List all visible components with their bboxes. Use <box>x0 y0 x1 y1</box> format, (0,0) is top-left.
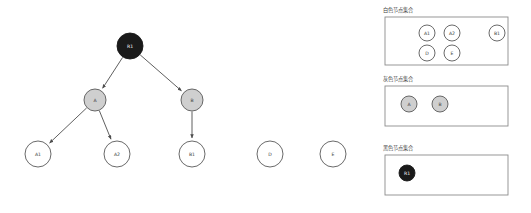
legend-node-black-node-set-r1[interactable]: R1 <box>399 165 415 181</box>
legend-node-white-node-set-d[interactable]: D <box>419 45 435 61</box>
tree-node-a2[interactable]: A2 <box>104 141 130 167</box>
tree-edge-r1-to-b <box>140 55 181 91</box>
tree-node-r1-label: R1 <box>127 44 133 49</box>
legend-node-white-node-set-b1[interactable]: B1 <box>489 25 505 41</box>
legend-node-gray-node-set-b[interactable]: B <box>432 96 448 112</box>
tree-node-b1-label: B1 <box>189 152 195 157</box>
legend-node-d-label: D <box>425 51 429 56</box>
tree-node-d[interactable]: D <box>257 141 283 167</box>
tree-node-d-label: D <box>268 152 272 157</box>
tree-node-b[interactable]: B <box>181 89 203 111</box>
tree-node-e-label: E <box>332 152 335 157</box>
legend-node-e-label: E <box>451 51 454 56</box>
tree-node-r1[interactable]: R1 <box>117 33 143 59</box>
tree-edges <box>50 55 192 143</box>
tree-node-b-label: B <box>190 98 193 103</box>
legend-node-b1-label: B1 <box>494 31 500 36</box>
legend-node-white-node-set-a2[interactable]: A2 <box>444 25 460 41</box>
tree-node-b1[interactable]: B1 <box>179 141 205 167</box>
tree-node-a1[interactable]: A1 <box>25 141 51 167</box>
legend-node-gray-node-set-a[interactable]: A <box>401 96 417 112</box>
legend-panel-gray-node-set: 灰色节点集合AB <box>383 75 508 126</box>
legend-panel-black-node-set-title: 黑色节点集合 <box>383 144 414 152</box>
legend-panel-white-node-set-title: 白色节点集合 <box>383 6 414 14</box>
tree-node-e[interactable]: E <box>320 141 346 167</box>
diagram-svg: R1ABA1A2B1DE 白色节点集合A1A2B1DE灰色节点集合AB黑色节点集… <box>0 0 531 213</box>
tree-node-a[interactable]: A <box>84 89 106 111</box>
legend-node-a1-label: A1 <box>424 31 430 36</box>
legend-node-white-node-set-a1[interactable]: A1 <box>419 25 435 41</box>
tree-edge-a-to-a1 <box>50 108 87 143</box>
tree-nodes: R1ABA1A2B1DE <box>25 33 346 167</box>
tree-edge-r1-to-a <box>103 57 123 88</box>
tree-node-a1-label: A1 <box>35 152 41 157</box>
tree-node-a2-label: A2 <box>114 152 120 157</box>
legend-node-a2-label: A2 <box>449 31 455 36</box>
legend-panel-black-node-set: 黑色节点集合R1 <box>383 144 508 195</box>
diagram-canvas: R1ABA1A2B1DE 白色节点集合A1A2B1DE灰色节点集合AB黑色节点集… <box>0 0 531 213</box>
legend-panel-white-node-set: 白色节点集合A1A2B1DE <box>383 6 508 65</box>
tree-edge-a-to-a2 <box>99 111 111 140</box>
legend-node-white-node-set-e[interactable]: E <box>444 45 460 61</box>
legend-panels: 白色节点集合A1A2B1DE灰色节点集合AB黑色节点集合R1 <box>383 6 508 195</box>
legend-panel-gray-node-set-title: 灰色节点集合 <box>383 75 414 83</box>
legend-node-r1-label: R1 <box>404 171 410 176</box>
legend-node-b-label: B <box>438 102 441 107</box>
